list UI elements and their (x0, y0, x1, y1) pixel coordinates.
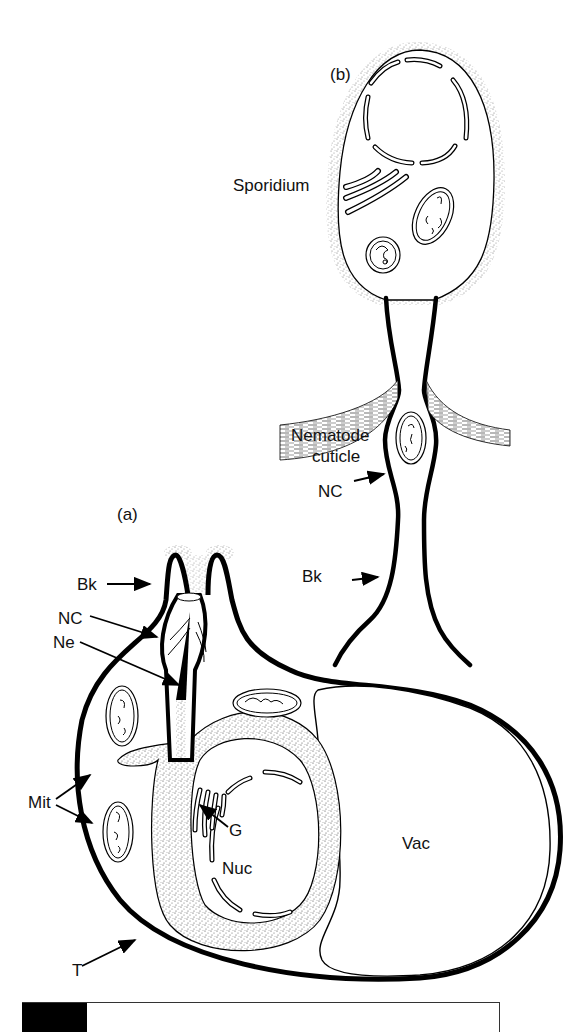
nucleus (191, 739, 319, 923)
infected-cell (77, 545, 560, 979)
label-mit: Mit (28, 794, 51, 811)
label-t: T (72, 962, 82, 979)
panel-b-label: (b) (330, 66, 351, 83)
mitochondrion-lower (103, 802, 133, 862)
label-nc-b: NC (318, 483, 343, 500)
panel-a-label: (a) (117, 506, 138, 523)
label-cuticle: cuticle (312, 448, 360, 465)
neck-mitochondrion (396, 412, 426, 464)
label-nematode: Nematode (291, 427, 369, 444)
caption-frame (22, 1002, 500, 1032)
label-nuc: Nuc (222, 860, 252, 877)
label-bk-a: Bk (77, 576, 97, 593)
label-g: G (229, 822, 242, 839)
diagram-canvas (0, 0, 583, 1032)
label-sporidium: Sporidium (233, 177, 310, 194)
label-nc-a: NC (58, 610, 83, 627)
label-bk-b: Bk (302, 568, 322, 585)
label-vac: Vac (402, 835, 430, 852)
mitochondrion-upper (106, 686, 138, 746)
label-ne: Ne (53, 634, 75, 651)
sporidium-mitochondrion-small (366, 237, 400, 273)
caption-tag (22, 1003, 87, 1032)
mitochondrion-top (233, 689, 301, 717)
sporidium-cell (326, 42, 505, 305)
